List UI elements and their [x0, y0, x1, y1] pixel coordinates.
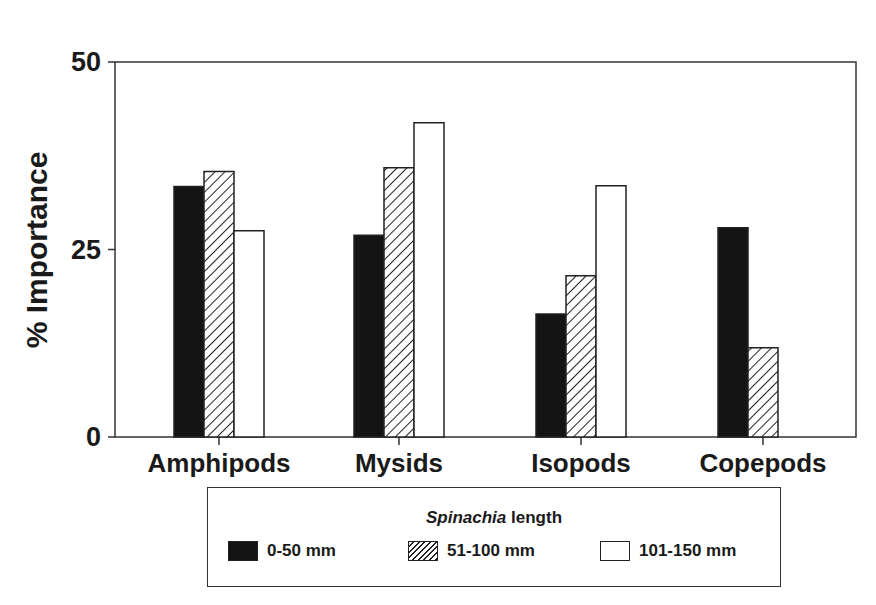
legend-label: 0-50 mm	[267, 541, 336, 561]
x-category-label: Copepods	[699, 448, 826, 478]
legend-item-101-150: 101-150 mm	[600, 541, 736, 561]
legend-title: Spinachia length	[208, 508, 780, 528]
y-tick-label: 0	[86, 422, 101, 452]
bar-black	[718, 228, 748, 437]
legend-item-0-50: 0-50 mm	[228, 541, 336, 561]
bar-hatched	[204, 172, 234, 438]
legend-swatch-black	[228, 541, 258, 561]
bar-white	[596, 186, 626, 437]
x-category-label: Amphipods	[148, 448, 291, 478]
x-category-label: Mysids	[355, 448, 443, 478]
legend-swatch-hatched	[408, 541, 438, 561]
bar-hatched	[566, 276, 596, 437]
bar-white	[234, 231, 264, 437]
x-category-label: Isopods	[531, 448, 631, 478]
y-tick-label: 25	[71, 235, 101, 265]
legend-item-51-100: 51-100 mm	[408, 541, 535, 561]
legend-label: 51-100 mm	[447, 541, 535, 561]
bar-hatched	[384, 168, 414, 437]
legend-swatch-white	[600, 541, 630, 561]
y-axis-label: % Importance	[20, 152, 53, 349]
legend: Spinachia length 0-50 mm 51-100 mm 101-1…	[207, 487, 781, 587]
bar-hatched	[748, 348, 778, 437]
bar-white	[414, 123, 444, 437]
bar-black	[174, 187, 204, 438]
bars-group	[174, 123, 778, 437]
legend-label: 101-150 mm	[639, 541, 736, 561]
legend-title-species: Spinachia	[426, 508, 506, 527]
legend-title-rest: length	[506, 508, 562, 527]
bar-black	[536, 314, 566, 437]
y-tick-label: 50	[71, 47, 101, 77]
bar-black	[354, 235, 384, 437]
